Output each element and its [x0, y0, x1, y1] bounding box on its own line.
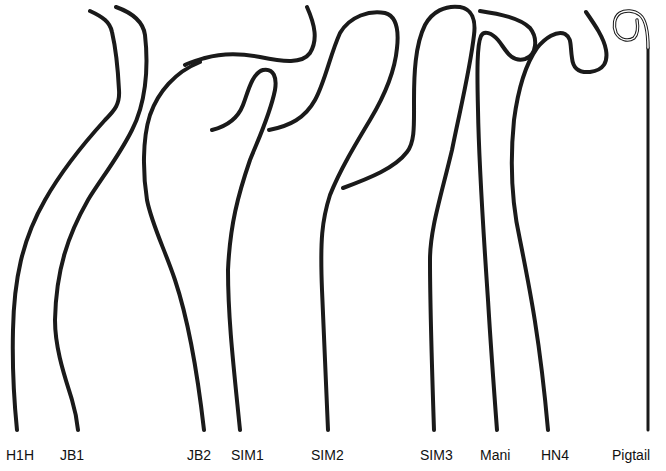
catheter-hn4-shape — [512, 12, 607, 430]
label-sim1: SIM1 — [231, 447, 264, 463]
catheter-sim2-shape — [185, 7, 398, 430]
catheter-h1h-shape — [13, 11, 119, 430]
catheter-sim3-shape — [343, 7, 474, 430]
catheter-jb2-shape — [144, 62, 204, 430]
catheter-pigtail-shape — [614, 11, 648, 430]
label-hn4: HN4 — [541, 447, 569, 463]
label-h1h: H1H — [6, 447, 34, 463]
label-sim3: SIM3 — [420, 447, 453, 463]
label-mani: Mani — [480, 447, 510, 463]
label-sim2: SIM2 — [311, 447, 344, 463]
catheter-mani-shape — [477, 11, 535, 430]
catheter-jb1-shape — [55, 7, 146, 430]
label-jb1: JB1 — [60, 447, 84, 463]
label-jb2: JB2 — [187, 447, 211, 463]
catheter-shapes — [0, 0, 666, 471]
label-pigtail: Pigtail — [612, 447, 650, 463]
catheter-sim1-shape — [212, 70, 276, 430]
